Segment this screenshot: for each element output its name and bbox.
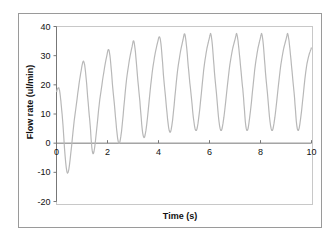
x-tick-label: 8 [258, 147, 263, 157]
y-tick-label: 30 [40, 51, 50, 61]
x-tick-label: 6 [207, 147, 212, 157]
x-axis-title: Time (s) [163, 211, 197, 221]
y-tick-label: 20 [40, 80, 50, 90]
y-tick-label: -20 [37, 197, 50, 207]
x-tick-label: 2 [105, 147, 110, 157]
plot-area [57, 27, 313, 205]
flow-rate-chart: 403020100-10-20 0246810 Time (s) Flow ra… [0, 0, 335, 242]
y-tick-label: 10 [40, 109, 50, 119]
y-axis-title: Flow rate (ul/min) [25, 65, 35, 140]
x-tick-label: 0 [54, 147, 59, 157]
y-tick-label: -10 [37, 167, 50, 177]
x-tick-label: 4 [156, 147, 161, 157]
y-tick-label: 40 [40, 22, 50, 32]
x-tick-label: 10 [306, 147, 316, 157]
y-tick-label: 0 [45, 138, 50, 148]
